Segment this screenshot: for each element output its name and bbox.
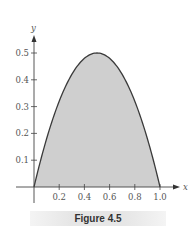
plot-area: x y 0.20.40.60.81.0 0.10.20.30.40.5 xyxy=(0,0,191,210)
x-tick-label: 0.4 xyxy=(78,192,92,202)
y-tick-label: 0.3 xyxy=(15,102,29,112)
y-tick-label: 0.4 xyxy=(15,75,29,85)
y-tick-label: 0.1 xyxy=(15,155,29,165)
y-tick-label: 0.5 xyxy=(15,48,29,58)
x-tick-label: 0.8 xyxy=(128,192,142,202)
x-axis-arrow-icon xyxy=(173,185,180,190)
x-tick-label: 1.0 xyxy=(153,192,167,202)
x-tick-label: 0.2 xyxy=(52,192,66,202)
figure-caption: Figure 4.5 xyxy=(30,211,166,226)
y-tick-label: 0.2 xyxy=(15,128,29,138)
x-tick-label: 0.6 xyxy=(103,192,117,202)
y-axis-label: y xyxy=(30,23,36,33)
x-axis-label: x xyxy=(183,182,188,192)
y-axis-arrow-icon xyxy=(32,35,37,42)
